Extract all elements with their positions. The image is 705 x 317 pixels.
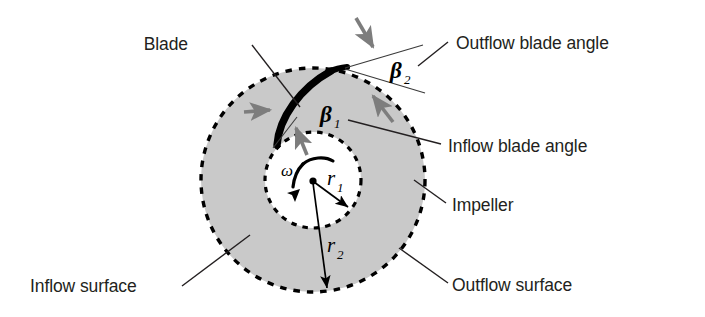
impeller-label: Impeller [452,195,514,215]
inflow-flow-arrow [244,110,270,112]
r1-glyph: r [327,166,336,190]
impeller-diagram: β 2 β 1 ω r 1 r 2 [0,0,705,317]
outflow-flow-arrow [356,18,373,47]
omega-label: ω [281,161,293,180]
beta1-glyph: β [319,102,332,127]
r2-subscript: 2 [337,247,344,262]
outflow-surface-leader-line [399,248,448,283]
blade-tangent-line-outflow [345,45,423,68]
r1-dimension: r 1 [314,166,348,207]
r2-glyph: r [327,233,336,257]
beta2-subscript: 2 [404,72,411,87]
r1-subscript: 1 [337,180,344,195]
blade-label: Blade [144,34,188,54]
beta2-symbol: β 2 [389,58,411,87]
outflow-blade-angle-label: Outflow blade angle [456,33,609,53]
inflow-blade-angle-label: Inflow blade angle [448,136,587,156]
inflow-surface-label: Inflow surface [30,276,137,296]
outflow-surface-label: Outflow surface [452,275,572,295]
impeller-diagram-canvas: β 2 β 1 ω r 1 r 2 [0,0,705,317]
beta2-glyph: β [389,58,402,83]
beta1-subscript: 1 [334,116,341,131]
